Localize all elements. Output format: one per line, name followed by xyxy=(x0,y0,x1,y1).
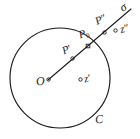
geometry-figure: O P′ P0 P″ σ z′ z″ C xyxy=(0,0,140,139)
point-marker-z-prime xyxy=(79,78,82,81)
label-circle-C: C xyxy=(94,113,103,126)
point-marker-z-double-prime xyxy=(114,29,117,32)
figure-canvas xyxy=(0,0,140,139)
label-center-O: O xyxy=(35,75,45,88)
